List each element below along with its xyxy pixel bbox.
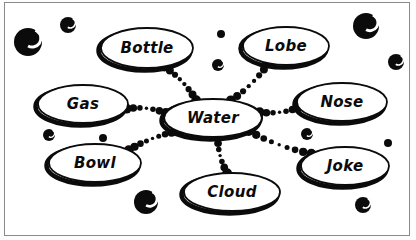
node-water[interactable] (162, 99, 263, 140)
decorative-bubble (301, 127, 314, 140)
edge-bead (150, 107, 156, 113)
node-nose[interactable] (295, 83, 388, 124)
decorative-bubble (60, 16, 77, 33)
edge-bead (218, 154, 221, 157)
decorative-bubble (43, 128, 56, 141)
edge-bead (137, 105, 143, 111)
edge-bead (178, 77, 182, 81)
edge-bead (151, 137, 154, 140)
decorative-bubble (388, 53, 405, 70)
edge-bead (256, 72, 262, 78)
decorative-bubble (212, 58, 225, 71)
edge-bead (299, 148, 307, 156)
edge-bead (269, 139, 274, 144)
edge-bead (263, 109, 271, 117)
node-lobe[interactable] (241, 27, 330, 68)
edge-bead (233, 92, 241, 100)
edge-bead (219, 159, 225, 165)
edge-bead (283, 108, 289, 114)
edge-bead (285, 145, 290, 150)
decorative-bubble (355, 196, 372, 213)
node-cloud[interactable] (182, 173, 281, 214)
node-bowl[interactable] (47, 144, 142, 185)
bubble-disc (217, 30, 225, 38)
edge-bead (156, 134, 161, 139)
decorative-bubble (14, 26, 44, 56)
decorative-bubble (353, 11, 381, 39)
edge-bead (240, 88, 246, 94)
edge-bead (252, 79, 256, 83)
edge-bead (292, 147, 299, 154)
diagram-artwork (0, 0, 416, 240)
decorative-bubble (384, 139, 392, 147)
edge-bead (182, 82, 186, 86)
edge-bead (270, 110, 276, 116)
edge-bead (247, 84, 251, 88)
edge-bead (216, 147, 222, 153)
edge-bead (260, 135, 267, 142)
edge-bead (278, 111, 281, 114)
bubble-disc (99, 134, 107, 142)
node-gas[interactable] (36, 85, 129, 126)
edge-bead (144, 138, 149, 143)
edge-bead (186, 86, 192, 92)
diagram-canvas: BottleLobeGasNoseBowlJokeCloudWater (0, 0, 416, 240)
decorative-bubble (99, 134, 107, 142)
decorative-bubble (217, 30, 225, 38)
bubble-disc (384, 139, 392, 147)
edge-bead (277, 143, 280, 146)
node-layer (36, 27, 390, 214)
edge-bead (145, 107, 148, 110)
node-bottle[interactable] (99, 28, 194, 71)
node-joke[interactable] (299, 147, 390, 188)
decorative-bubble (134, 189, 160, 214)
